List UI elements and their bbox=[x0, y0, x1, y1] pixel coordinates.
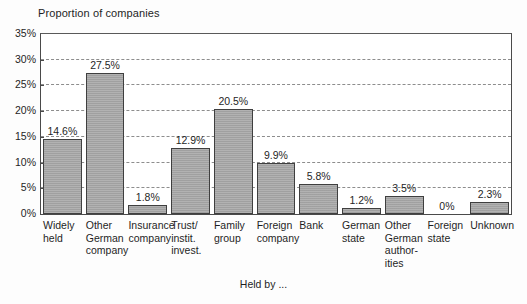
x-label-line: ities bbox=[385, 257, 442, 270]
y-tick-label: 15% bbox=[4, 130, 36, 142]
y-tick-mark bbox=[40, 137, 44, 138]
bar-value-label: 0% bbox=[420, 200, 475, 212]
bar-slot[interactable]: 27.5% bbox=[84, 34, 127, 214]
bar-value-label: 27.5% bbox=[78, 59, 133, 71]
y-tick-mark bbox=[40, 188, 44, 189]
bar-slot[interactable]: 12.9% bbox=[169, 34, 212, 214]
x-label-line: company bbox=[86, 244, 143, 257]
y-tick-label: 20% bbox=[4, 104, 36, 116]
y-tick-mark bbox=[40, 85, 44, 86]
bar-slot[interactable]: 0% bbox=[426, 34, 469, 214]
x-category-label: Unknown bbox=[470, 219, 527, 232]
bar-value-label: 12.9% bbox=[163, 134, 218, 146]
bar-slot[interactable]: 1.8% bbox=[126, 34, 169, 214]
bar[interactable] bbox=[342, 208, 381, 214]
x-label-line: author- bbox=[385, 244, 442, 257]
bar[interactable] bbox=[86, 73, 125, 214]
bar[interactable] bbox=[470, 202, 509, 214]
y-tick-mark bbox=[40, 163, 44, 164]
bar[interactable] bbox=[257, 163, 296, 214]
x-axis-category-labels: WidelyheldOtherGermancompanyInsurancecom… bbox=[41, 219, 511, 281]
bar-slot[interactable]: 9.9% bbox=[255, 34, 298, 214]
y-tick-label: 25% bbox=[4, 78, 36, 90]
y-tick-label: 10% bbox=[4, 156, 36, 168]
bar[interactable] bbox=[299, 184, 338, 214]
bar-value-label: 20.5% bbox=[206, 95, 261, 107]
bar[interactable] bbox=[128, 205, 167, 214]
bar-value-label: 2.3% bbox=[462, 188, 517, 200]
bar-slot[interactable]: 2.3% bbox=[468, 34, 511, 214]
bar-slot[interactable]: 20.5% bbox=[212, 34, 255, 214]
bar[interactable] bbox=[171, 148, 210, 214]
y-tick-label: 5% bbox=[4, 181, 36, 193]
y-tick-label: 30% bbox=[4, 53, 36, 65]
x-label-line: invest. bbox=[171, 244, 228, 257]
bar-value-label: 1.8% bbox=[120, 191, 175, 203]
y-tick-mark bbox=[40, 60, 44, 61]
bar-value-label: 3.5% bbox=[377, 182, 432, 194]
bar[interactable] bbox=[214, 109, 253, 214]
bar-slot[interactable]: 5.8% bbox=[297, 34, 340, 214]
bar-chart-figure: Proportion of companies 35%30%25%20%15%1… bbox=[0, 0, 527, 304]
x-label-line: company bbox=[257, 232, 314, 245]
y-tick-mark bbox=[40, 111, 44, 112]
x-label-line: state bbox=[428, 232, 485, 245]
bar-value-label: 9.9% bbox=[249, 149, 304, 161]
y-tick-label: 0% bbox=[4, 207, 36, 219]
x-label-line: Unknown bbox=[470, 219, 527, 232]
bar[interactable] bbox=[385, 196, 424, 214]
x-axis-title: Held by ... bbox=[0, 278, 527, 290]
bar-value-label: 14.6% bbox=[35, 125, 90, 137]
bar-value-label: 5.8% bbox=[291, 170, 346, 182]
bar-value-label: 1.2% bbox=[334, 194, 389, 206]
bar-slot[interactable]: 3.5% bbox=[383, 34, 426, 214]
bar[interactable] bbox=[43, 139, 82, 214]
bars-layer: 14.6%27.5%1.8%12.9%20.5%9.9%5.8%1.2%3.5%… bbox=[41, 34, 511, 214]
chart-title: Proportion of companies bbox=[38, 7, 160, 19]
y-axis: 35%30%25%20%15%10%5%0% bbox=[0, 33, 36, 215]
y-tick-label: 35% bbox=[4, 27, 36, 39]
